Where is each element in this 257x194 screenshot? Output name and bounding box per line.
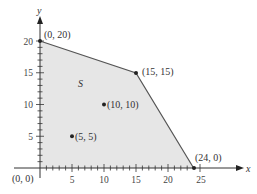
x-tick-label: 25 [196, 175, 206, 185]
x-tick-label: 10 [99, 175, 109, 185]
diagram-canvas: 5 10 15 20 25 5 10 15 20 x y (0, 0) S (0… [0, 0, 257, 194]
y-axis-label: y [36, 5, 42, 16]
point-label: (0, 20) [44, 29, 71, 41]
y-axis-arrow-icon [37, 16, 43, 24]
x-tick-label: 15 [131, 175, 141, 185]
origin-label: (0, 0) [12, 173, 34, 185]
point-label: (5, 5) [75, 131, 97, 143]
point-marker [70, 134, 74, 138]
y-tick-label: 20 [24, 37, 34, 47]
x-tick-label: 5 [70, 175, 75, 185]
y-tick-label: 15 [24, 68, 34, 78]
y-tick-label: 10 [24, 100, 34, 110]
point-marker [134, 71, 138, 75]
feasible-region-diagram: 5 10 15 20 25 5 10 15 20 x y (0, 0) S (0… [0, 0, 257, 194]
point-marker [102, 103, 106, 107]
point-label: (10, 10) [107, 99, 139, 111]
point-label: (15, 15) [142, 66, 174, 78]
region-label: S [78, 78, 83, 89]
point-marker [192, 166, 196, 170]
y-tick-label: 5 [28, 132, 33, 142]
x-axis-label: x [245, 163, 251, 174]
x-axis-arrow-icon [236, 165, 244, 171]
point-marker [38, 39, 42, 43]
x-tick-label: 20 [163, 175, 173, 185]
point-label: (24, 0) [195, 152, 222, 164]
